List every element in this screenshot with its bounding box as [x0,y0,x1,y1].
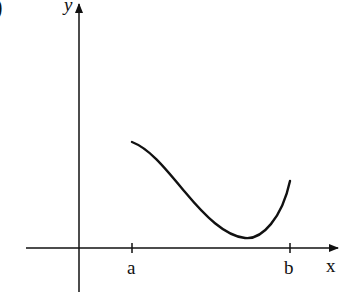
tick-label-b: b [284,257,294,278]
panel-label: ) [0,0,3,22]
graph-canvas: a b x y [0,0,343,292]
function-graph-figure: ) a b x y [0,0,343,292]
x-axis-label: x [326,255,336,276]
tick-label-a: a [127,257,136,278]
y-axis-label: y [62,0,73,15]
function-curve [132,142,290,238]
